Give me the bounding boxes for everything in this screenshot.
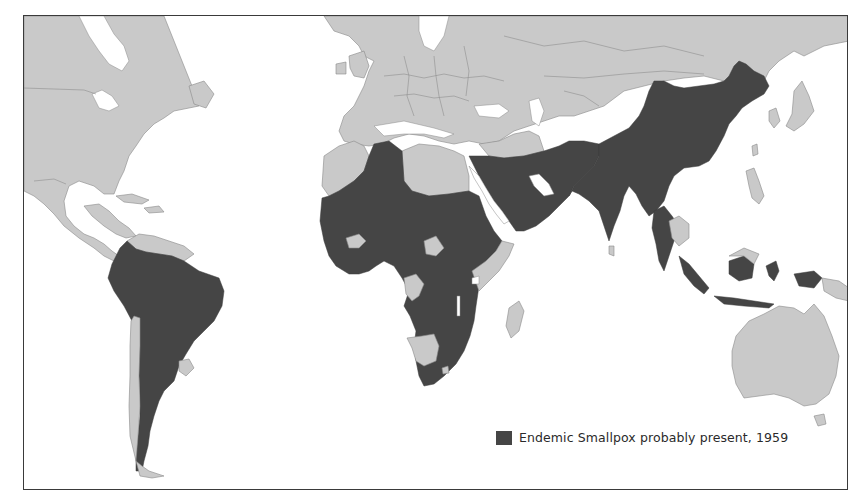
australia — [732, 304, 839, 426]
west-new-guinea — [794, 271, 822, 288]
map-legend: Endemic Smallpox probably present, 1959 — [496, 430, 788, 445]
tasmania — [814, 414, 826, 426]
south-america — [108, 234, 224, 478]
map-frame — [23, 15, 848, 490]
sulawesi — [766, 261, 779, 281]
indonesia — [679, 248, 848, 308]
europe — [324, 16, 848, 146]
north-america — [24, 16, 214, 261]
papua-new-guinea — [822, 278, 848, 301]
world-map — [24, 16, 848, 490]
legend-label: Endemic Smallpox probably present, 1959 — [519, 430, 788, 445]
legend-swatch-endemic — [496, 431, 512, 445]
